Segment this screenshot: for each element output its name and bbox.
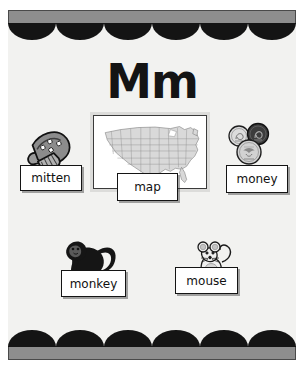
top-border-decoration (8, 10, 296, 40)
word-card-mitten[interactable]: mitten (20, 165, 82, 191)
scallop-shape (104, 23, 152, 40)
scallop-shape (56, 330, 104, 347)
bottom-border-bar (8, 346, 296, 360)
florida-shape (180, 167, 187, 182)
scallop-shape (200, 330, 248, 347)
word-card-label: mouse (186, 274, 226, 288)
word-card-mouse[interactable]: mouse (175, 267, 238, 294)
top-scallop-row (8, 23, 296, 40)
money-illustration (224, 122, 276, 170)
word-card-label: monkey (70, 277, 118, 291)
scallop-shape (152, 330, 200, 347)
alphabet-poster: Mm (8, 10, 296, 360)
word-card-label: mitten (31, 171, 70, 185)
quarter-coin (237, 140, 261, 164)
page-title: Mm (8, 57, 296, 105)
scallop-shape (104, 330, 152, 347)
word-card-label: map (134, 180, 161, 194)
word-card-money[interactable]: money (226, 165, 288, 193)
word-card-map[interactable]: map (117, 173, 178, 201)
scallop-shape (248, 330, 296, 347)
bottom-border-decoration (8, 330, 296, 360)
scallop-shape (8, 330, 56, 347)
coins-icon (224, 122, 276, 170)
scallop-shape (248, 23, 296, 40)
word-card-monkey[interactable]: monkey (61, 270, 126, 297)
word-card-label: money (236, 172, 277, 186)
scallop-shape (8, 23, 56, 40)
scallop-shape (152, 23, 200, 40)
top-border-bar (8, 10, 296, 24)
bottom-scallop-row (8, 330, 296, 347)
scallop-shape (200, 23, 248, 40)
scallop-shape (56, 23, 104, 40)
